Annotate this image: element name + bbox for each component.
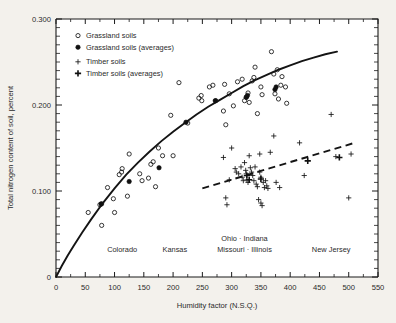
legend-label: Grassland soils (averages) [86,43,174,52]
grassland-average-point [99,202,103,206]
region-label: Colorado [107,245,137,254]
x-axis-title: Humidity factor (N.S.Q.) [177,301,258,310]
x-tick-label: 0 [54,283,58,292]
region-label: Kansas [163,245,188,254]
region-label: New Jersey [312,245,351,254]
figure-container: 050100150200250300350400450500550 00.100… [0,0,396,323]
x-tick-label: 200 [167,283,180,292]
region-label: Ohio · Indiana [221,234,268,243]
grassland-average-point [213,99,217,103]
x-tick-label: 50 [81,283,89,292]
x-tick-label: 500 [342,283,355,292]
region-label: Missouri · Illinois [217,245,272,254]
legend-item-grassland_avg: Grassland soils (averages) [76,43,174,52]
x-tick-label: 350 [255,283,268,292]
legend-label: Grassland soils [86,31,137,40]
grassland-average-point [127,179,131,183]
y-tick-label: 0 [47,273,51,282]
grassland-average-point [157,166,161,170]
y-tick-label: 0.100 [32,187,51,196]
grassland-average-point [274,85,278,89]
legend-item-grassland: Grassland soils [76,31,137,40]
x-tick-label: 100 [108,283,121,292]
x-tick-label: 400 [284,283,297,292]
nitrogen-humidity-scatter-chart: 050100150200250300350400450500550 00.100… [0,0,396,323]
grassland-average-point [245,93,249,97]
x-tick-label: 150 [137,283,150,292]
x-tick-label: 450 [313,283,326,292]
legend-item-timber_avg: Timber soils (averages) [75,69,163,78]
y-axis-title: Total nitrogen content of soil, percent [6,85,15,210]
x-tick-label: 550 [372,283,385,292]
x-tick-label: 300 [225,283,238,292]
legend-label: Timber soils (averages) [86,69,163,78]
legend-label: Timber soils [86,57,126,66]
y-tick-label: 0.200 [32,101,51,110]
x-tick-label: 250 [196,283,209,292]
y-tick-label: 0.300 [32,15,51,24]
grassland-average-point [184,120,188,124]
grassland-average-point [76,45,80,49]
